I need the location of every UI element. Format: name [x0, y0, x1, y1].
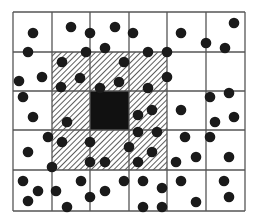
- dot: [201, 38, 212, 49]
- dot: [85, 28, 96, 39]
- dot: [171, 157, 182, 168]
- dot: [56, 82, 67, 93]
- dot: [85, 137, 96, 148]
- dot: [33, 186, 44, 197]
- dot: [18, 176, 29, 187]
- dot: [138, 176, 149, 187]
- dot: [18, 92, 29, 103]
- dot: [75, 73, 86, 84]
- dot: [81, 47, 92, 58]
- dot: [114, 77, 125, 88]
- dot: [157, 183, 168, 194]
- dot: [205, 132, 216, 143]
- dot: [147, 147, 158, 158]
- dot: [28, 28, 39, 39]
- center-cell-fill: [90, 91, 129, 130]
- dot: [51, 186, 62, 197]
- dot: [176, 28, 187, 39]
- dot: [133, 110, 144, 121]
- dot: [100, 43, 111, 54]
- dot: [229, 18, 240, 29]
- dot: [180, 132, 191, 143]
- dot: [85, 157, 96, 168]
- dot: [133, 157, 144, 168]
- dot: [95, 83, 106, 94]
- dot: [128, 28, 139, 39]
- dot: [191, 197, 202, 208]
- dot: [176, 176, 187, 187]
- dot: [229, 112, 240, 123]
- dot: [143, 47, 154, 58]
- center-cell: [90, 91, 129, 130]
- dot: [28, 112, 39, 123]
- dot: [23, 47, 34, 58]
- dot: [224, 152, 235, 163]
- dot: [57, 137, 68, 148]
- dot: [191, 152, 202, 163]
- dot: [219, 176, 230, 187]
- dot: [76, 176, 87, 187]
- dot: [224, 192, 235, 203]
- dot: [110, 22, 121, 33]
- dot: [176, 105, 187, 116]
- dot: [23, 196, 34, 207]
- dot: [47, 162, 58, 173]
- dot: [133, 127, 144, 138]
- dot: [57, 57, 68, 68]
- dot: [152, 127, 163, 138]
- dot: [119, 176, 130, 187]
- grid-dot-diagram: [0, 0, 258, 221]
- dot: [220, 43, 231, 54]
- dot: [162, 72, 173, 83]
- dot: [162, 47, 173, 58]
- dot: [37, 72, 48, 83]
- dot: [14, 76, 25, 87]
- dot: [100, 186, 111, 197]
- dot: [62, 117, 73, 128]
- dot: [224, 88, 235, 99]
- dot: [119, 57, 130, 68]
- dot: [157, 202, 168, 213]
- dot: [210, 117, 221, 128]
- dot: [124, 142, 135, 153]
- dot: [138, 202, 149, 213]
- dot: [43, 132, 54, 143]
- dot: [100, 157, 111, 168]
- dot: [66, 22, 77, 33]
- dot: [23, 147, 34, 158]
- dot: [147, 105, 158, 116]
- dot: [85, 192, 96, 203]
- dot: [205, 92, 216, 103]
- dot: [62, 202, 73, 213]
- dot: [143, 83, 154, 94]
